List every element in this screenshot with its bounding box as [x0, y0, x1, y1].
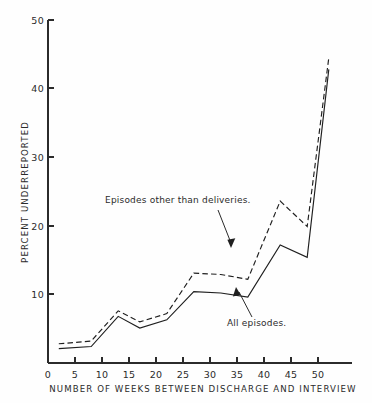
annotation-lower-leader [239, 292, 252, 317]
x-tick-label-50: 50 [312, 369, 325, 380]
x-tick-label-45: 45 [285, 369, 298, 380]
x-tick-label-0: 0 [45, 369, 51, 380]
y-tick-label-50: 50 [31, 15, 44, 26]
x-tick-label-15: 15 [123, 369, 136, 380]
y-tick-label-10: 10 [31, 289, 44, 300]
line-chart: 50 40 30 20 10 0 5 10 15 20 25 30 35 40 … [0, 0, 372, 403]
chart-figure: 50 40 30 20 10 0 5 10 15 20 25 30 35 40 … [0, 0, 372, 403]
annotation-lower-arrowhead [233, 287, 241, 296]
x-tick-label-20: 20 [150, 369, 163, 380]
annotation-upper-arrowhead [227, 238, 235, 248]
x-tick-label-35: 35 [231, 369, 244, 380]
x-tick-label-30: 30 [204, 369, 217, 380]
y-axis-title: PERCENT UNDERREPORTED [20, 121, 30, 263]
annotation-lower-label: All episodes. [227, 318, 286, 328]
x-tick-label-10: 10 [96, 369, 109, 380]
x-tick-label-5: 5 [72, 369, 78, 380]
x-axis-title: NUMBER OF WEEKS BETWEEN DISCHARGE AND IN… [49, 384, 356, 394]
y-tick-label-20: 20 [31, 221, 44, 232]
annotation-upper-label: Episodes other than deliveries. [105, 195, 251, 205]
y-tick-label-40: 40 [31, 83, 44, 94]
y-tick-label-30: 30 [31, 152, 44, 163]
x-tick-label-25: 25 [177, 369, 190, 380]
annotation-upper-leader [218, 210, 231, 243]
x-tick-label-40: 40 [258, 369, 271, 380]
